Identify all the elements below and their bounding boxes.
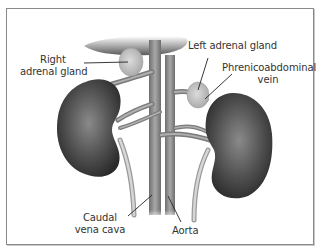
label-aorta: Aorta (172, 225, 198, 237)
label-right-adrenal-gland: Right adrenal gland (20, 54, 86, 78)
label-line: Left adrenal gland (188, 40, 277, 52)
label-line: adrenal gland (20, 66, 86, 78)
label-line: Right (20, 54, 86, 66)
left-adrenal-gland (187, 82, 209, 108)
label-line: vena cava (70, 224, 130, 236)
left-kidney (206, 93, 273, 198)
label-line: Aorta (172, 225, 198, 237)
label-line: vein (222, 74, 314, 86)
right-kidney (57, 79, 121, 177)
label-line: Phrenicoabdominal (222, 62, 314, 74)
label-caudal-vena-cava: Caudal vena cava (70, 212, 130, 236)
label-phrenicoabdominal-vein: Phrenicoabdominal vein (222, 62, 314, 86)
label-line: Caudal (70, 212, 130, 224)
kidney-anatomy-illustration (0, 0, 321, 251)
label-left-adrenal-gland: Left adrenal gland (188, 40, 277, 52)
